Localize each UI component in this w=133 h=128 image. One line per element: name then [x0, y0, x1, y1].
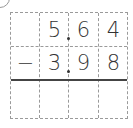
decimal-point [67, 70, 70, 73]
minuend-cell: 6 [69, 13, 98, 46]
subtrahend-cell: 9 [69, 46, 98, 79]
subtrahend-cell: 3 [40, 46, 69, 79]
answer-cell[interactable] [69, 80, 98, 119]
answer-cell[interactable] [40, 80, 69, 119]
answer-cell[interactable] [11, 80, 40, 119]
operator-cell: − [11, 46, 40, 79]
minuend-cell: 5 [40, 13, 69, 46]
subtraction-grid: 5 6 4 − 3 9 8 [10, 12, 128, 119]
decimal-point [67, 37, 70, 40]
subtrahend-cell: 8 [99, 46, 128, 79]
problem-number-circle [0, 0, 10, 8]
answer-cell[interactable] [99, 80, 128, 119]
minuend-cell: 4 [99, 13, 128, 46]
minuend-cell [11, 13, 40, 46]
